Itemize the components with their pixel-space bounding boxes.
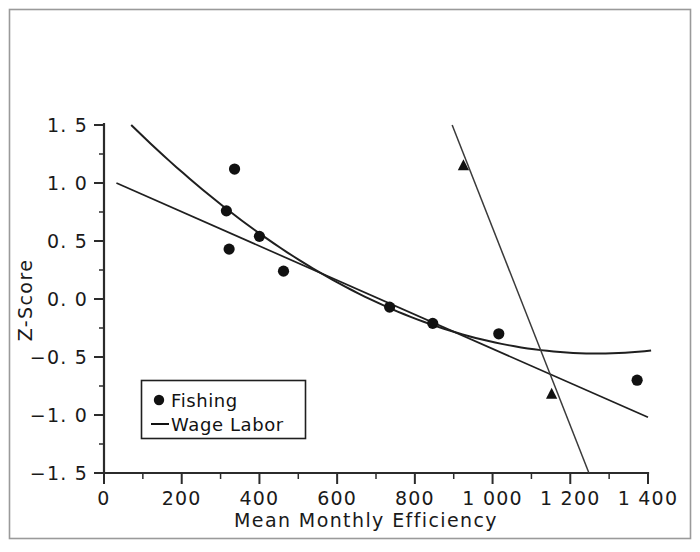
data-point-circle: [221, 205, 232, 216]
data-point-circle: [254, 231, 265, 242]
legend: Fishing Wage Labor: [142, 381, 306, 439]
x-tick-label: 0: [97, 487, 110, 509]
x-tick-label: 1 000: [462, 487, 522, 509]
y-tick-label: −1. 0: [30, 404, 88, 426]
legend-label-fishing: Fishing: [171, 390, 238, 411]
data-point-circle: [224, 244, 235, 255]
y-tick-label: −0. 5: [30, 346, 88, 368]
y-tick-label: 0. 5: [47, 230, 88, 252]
chart-svg: −1. 5−1. 0−0. 50. 00. 51. 01. 5 02004006…: [0, 0, 700, 552]
x-tick-label: 1 400: [618, 487, 678, 509]
data-point-circle: [229, 163, 240, 174]
figure-border: [10, 10, 691, 539]
data-point-circle: [384, 302, 395, 313]
y-axis-title: Z-Score: [14, 259, 36, 342]
x-tick-label: 800: [395, 487, 435, 509]
data-point-circle: [278, 266, 289, 277]
x-tick-label: 200: [162, 487, 202, 509]
figure-container: −1. 5−1. 0−0. 50. 00. 51. 01. 5 02004006…: [0, 0, 700, 552]
x-axis-title: Mean Monthly Efficiency: [234, 509, 498, 531]
y-tick-label: 1. 5: [47, 114, 88, 136]
data-point-circle: [493, 328, 504, 339]
x-tick-label: 400: [239, 487, 279, 509]
y-tick-label: 1. 0: [47, 172, 88, 194]
x-tick-label: 600: [317, 487, 357, 509]
x-tick-label: 1 200: [540, 487, 600, 509]
legend-label-wage-labor: Wage Labor: [171, 414, 284, 435]
y-tick-label: 0. 0: [47, 288, 88, 310]
data-point-circle: [427, 318, 438, 329]
y-tick-label: −1. 5: [30, 462, 88, 484]
data-point-circle: [632, 375, 643, 386]
legend-marker-circle-icon: [154, 395, 164, 405]
